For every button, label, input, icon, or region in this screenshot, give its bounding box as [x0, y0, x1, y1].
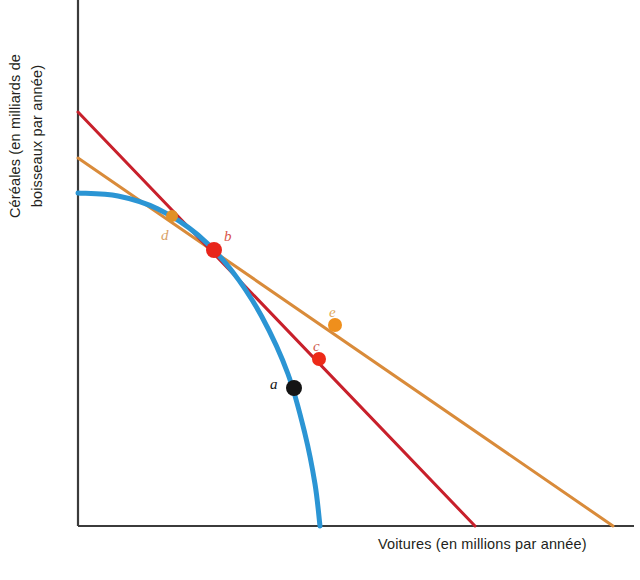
data-point-a [286, 380, 302, 396]
orange-price-line [78, 158, 613, 526]
data-point-c [312, 352, 326, 366]
data-point-e [328, 318, 342, 332]
chart-figure: Céréales (en milliards de boisseaux par … [0, 0, 640, 580]
chart-canvas [0, 0, 640, 580]
x-axis-label: Voitures (en millions par année) [378, 536, 587, 552]
data-point-d [166, 210, 178, 222]
data-point-b [206, 242, 222, 258]
red-price-line [78, 112, 475, 526]
